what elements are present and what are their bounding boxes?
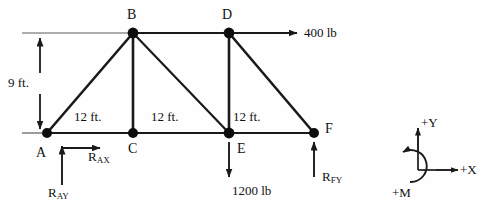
reaction-label-ray-base: R — [48, 185, 57, 200]
joint-D — [224, 28, 235, 39]
dimension-label-9ft: 9 ft. — [8, 76, 29, 89]
reaction-label-rfy-sub: FY — [331, 175, 343, 185]
dimension-label-12ft-left: 12 ft. — [74, 110, 101, 123]
joint-B — [128, 28, 139, 39]
member-B-E — [133, 33, 229, 133]
reaction-label-rfy: RFY — [322, 170, 342, 183]
axis-moment-arc — [403, 150, 427, 182]
joint-label-C: C — [128, 142, 137, 156]
joint-label-D: D — [222, 8, 232, 22]
dimension-label-12ft-middle: 12 ft. — [151, 110, 178, 123]
axis-label-positive-x: +X — [460, 163, 477, 176]
joint-label-E: E — [237, 142, 246, 156]
joint-E — [224, 128, 235, 139]
reaction-label-rax: RAX — [88, 150, 110, 163]
axis-label-positive-y: +Y — [421, 116, 438, 129]
truss-diagram-figure: B D A C E F 9 ft. 12 ft. 12 ft. 12 ft. 4… — [0, 0, 488, 211]
joint-A — [42, 128, 52, 138]
dimension-label-12ft-right: 12 ft. — [233, 110, 260, 123]
load-label-400lb: 400 lb — [304, 26, 337, 39]
joint-F — [309, 128, 319, 138]
reaction-label-rax-base: R — [88, 149, 97, 164]
joint-label-F: F — [325, 122, 333, 136]
load-label-1200lb: 1200 lb — [232, 184, 271, 197]
reaction-label-rfy-base: R — [322, 169, 331, 184]
axis-label-positive-m: +M — [392, 186, 411, 199]
joint-C — [128, 128, 138, 138]
joint-label-B: B — [127, 8, 136, 22]
truss-diagram-canvas — [0, 0, 488, 211]
sign-convention-symbol — [403, 128, 458, 182]
reaction-label-ray-sub: AY — [57, 191, 69, 201]
reaction-label-ray: RAY — [48, 186, 69, 199]
joint-label-A: A — [36, 146, 46, 160]
reaction-label-rax-sub: AX — [97, 155, 110, 165]
